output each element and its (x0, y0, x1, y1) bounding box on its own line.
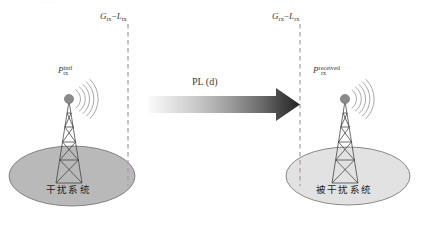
figure-canvas: · · · · · · · · · · · · · (0, 0, 422, 228)
left-ground-ellipse (9, 146, 135, 206)
path-loss-label: PL (d) (192, 76, 217, 87)
path-loss-arrow (148, 88, 300, 121)
tx-power-label: Pintftx (58, 64, 68, 76)
right-radiation-waves (352, 80, 374, 119)
left-system-label: 干扰系统 (46, 182, 91, 196)
left-antenna-dot (64, 94, 73, 103)
tx-gain-loss-label: Gtx−Ltx (100, 11, 127, 22)
left-radiation-waves (76, 80, 98, 119)
rx-gain-loss-label: Grx−Lrx (272, 11, 299, 22)
right-ground-ellipse (286, 147, 410, 205)
rx-power-label: Preceivedrx (313, 64, 326, 76)
right-system-label: 被干扰系统 (316, 182, 372, 196)
right-antenna-dot (340, 94, 349, 103)
